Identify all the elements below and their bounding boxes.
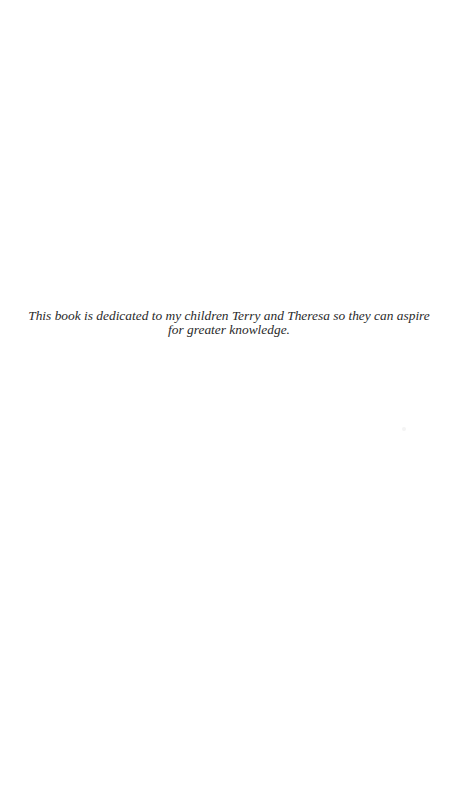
dedication-line-1: This book is dedicated to my children Te… [20, 309, 438, 323]
dedication-line-2: for greater knowledge. [20, 323, 438, 337]
book-page: This book is dedicated to my children Te… [0, 0, 458, 800]
scan-artifact [402, 427, 406, 431]
dedication-text: This book is dedicated to my children Te… [20, 309, 438, 337]
